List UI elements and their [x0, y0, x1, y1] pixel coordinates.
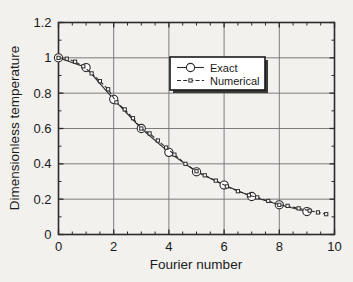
data-point-marker [278, 203, 281, 206]
data-point-marker [195, 170, 198, 173]
data-point-marker [107, 88, 110, 91]
legend-label: Numerical [210, 75, 260, 87]
data-point-marker [214, 179, 217, 182]
data-point-marker [82, 65, 85, 68]
data-point-marker [256, 196, 259, 199]
x-tick-label: 0 [55, 239, 62, 254]
data-point-marker [173, 153, 176, 156]
data-point-marker [156, 139, 159, 142]
x-tick-label: 4 [165, 239, 172, 254]
data-point-marker [57, 56, 60, 59]
data-point-marker [203, 174, 206, 177]
data-point-marker [325, 213, 328, 216]
data-point-marker [148, 132, 151, 135]
data-point-marker [165, 146, 168, 149]
y-tick-label: 0.6 [33, 121, 51, 136]
data-point-marker [123, 108, 126, 111]
y-tick-label: 0.2 [33, 192, 51, 207]
y-tick-label: 0.4 [33, 156, 51, 171]
y-axis-title: Dimensionless temperature [7, 46, 22, 210]
data-point-marker [236, 190, 239, 193]
y-tick-label: 1 [44, 50, 51, 65]
data-point-marker [65, 57, 68, 60]
data-point-marker [73, 60, 76, 63]
data-point-marker [225, 185, 228, 188]
y-tick-label: 1.2 [33, 15, 51, 30]
y-tick-label: 0.8 [33, 86, 51, 101]
data-point-marker [184, 162, 187, 165]
x-tick-label: 10 [327, 239, 341, 254]
x-tick-label: 2 [110, 239, 117, 254]
data-point-marker [308, 209, 311, 212]
data-point-marker [90, 72, 93, 75]
y-tick-label: 0 [44, 227, 51, 242]
x-axis-title: Fourier number [150, 257, 243, 272]
data-point-marker [286, 204, 289, 207]
data-point-marker [267, 199, 270, 202]
legend-marker-square [189, 79, 192, 82]
data-point-marker [115, 101, 118, 104]
data-point-marker [140, 127, 143, 130]
x-tick-label: 6 [220, 239, 227, 254]
data-point-marker [316, 211, 319, 214]
data-point-marker [297, 207, 300, 210]
data-point-marker [131, 117, 134, 120]
data-point-marker [247, 194, 250, 197]
legend-marker-circle [186, 63, 194, 71]
figure-background [0, 0, 353, 282]
data-point-marker [98, 80, 101, 83]
chart-figure: 0246810 00.20.40.60.811.2 Fourier number… [0, 0, 353, 282]
x-tick-label: 8 [276, 239, 283, 254]
chart-legend: ExactNumerical [170, 57, 268, 93]
legend-label: Exact [210, 62, 238, 74]
